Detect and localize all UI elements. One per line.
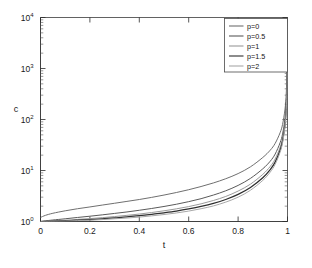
line-chart: 10010110210310400.20.40.60.81tcp=0p=0.5p… bbox=[0, 0, 312, 268]
y-tick-label: 104 bbox=[21, 12, 34, 23]
x-axis-label: t bbox=[163, 240, 166, 250]
y-tick-label: 102 bbox=[21, 114, 34, 125]
data-series-line bbox=[41, 48, 288, 217]
legend-item-label: p=0 bbox=[247, 22, 259, 31]
x-tick-label: 0.2 bbox=[84, 226, 96, 236]
x-tick-label: 0.6 bbox=[183, 226, 195, 236]
figure-canvas: 10010110210310400.20.40.60.81tcp=0p=0.5p… bbox=[0, 0, 312, 268]
x-tick-label: 1 bbox=[285, 226, 290, 236]
x-tick-label: 0.8 bbox=[232, 226, 244, 236]
legend-item-label: p=1 bbox=[247, 42, 259, 51]
data-series-line bbox=[41, 55, 288, 221]
legend[interactable]: p=0p=0.5p=1p=1.5p=2 bbox=[225, 19, 288, 73]
legend-item-label: p=2 bbox=[247, 62, 259, 71]
y-tick-label: 101 bbox=[21, 165, 34, 176]
y-tick-label: 100 bbox=[21, 216, 34, 227]
curves-group bbox=[41, 48, 288, 221]
data-series-line bbox=[41, 61, 288, 221]
y-axis-label: c bbox=[14, 104, 19, 114]
legend-item-label: p=1.5 bbox=[247, 52, 265, 61]
x-tick-label: 0 bbox=[38, 226, 43, 236]
x-tick-label: 0.4 bbox=[133, 226, 145, 236]
y-tick-label: 103 bbox=[21, 63, 34, 74]
data-series-line bbox=[41, 63, 288, 222]
legend-item-label: p=0.5 bbox=[247, 32, 265, 41]
data-series-line bbox=[41, 60, 288, 222]
